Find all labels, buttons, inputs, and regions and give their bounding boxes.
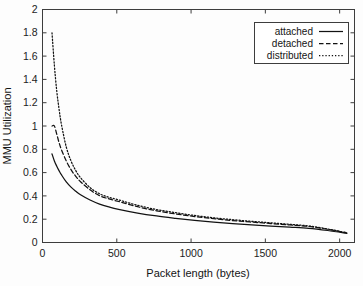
y-tick-label: 0.6 (23, 166, 38, 178)
x-tick-label: 500 (108, 247, 126, 259)
x-axis-tick-labels: 0500100015002000 (40, 247, 352, 259)
legend-label-distributed: distributed (267, 50, 313, 61)
x-tick-label: 1500 (254, 247, 278, 259)
y-tick-label: 0 (32, 236, 38, 248)
chart-legend[interactable]: attached detached distributed (255, 23, 349, 64)
y-axis-title: MMU Utilization (1, 87, 13, 164)
y-tick-label: 0.4 (23, 190, 38, 202)
y-tick-label: 1.2 (23, 96, 38, 108)
curve-detached (52, 125, 347, 233)
legend-label-detached: detached (272, 38, 313, 49)
y-axis-tick-labels: 00.20.40.60.811.21.41.61.82 (23, 3, 38, 248)
x-tick-label: 0 (40, 247, 46, 259)
y-tick-label: 1.8 (23, 26, 38, 38)
y-tick-label: 2 (32, 3, 38, 15)
y-tick-label: 0.2 (23, 213, 38, 225)
x-tick-label: 1000 (179, 247, 203, 259)
x-tick-label: 2000 (328, 247, 352, 259)
x-axis-title: Packet length (bytes) (146, 267, 249, 279)
y-tick-label: 1 (32, 120, 38, 132)
y-tick-label: 0.8 (23, 143, 38, 155)
legend-label-attached: attached (275, 26, 313, 37)
chart-canvas: 00.20.40.60.811.21.41.61.82 050010001500… (0, 0, 363, 286)
chart-figure: 00.20.40.60.811.21.41.61.82 050010001500… (0, 0, 363, 286)
y-tick-label: 1.6 (23, 50, 38, 62)
y-tick-label: 1.4 (23, 73, 38, 85)
